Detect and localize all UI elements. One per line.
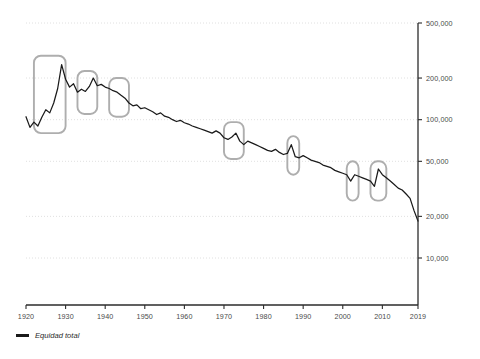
y-axis-tick-label-200000: 200,000 (426, 74, 453, 83)
x-axis-tick-label-1990: 1990 (283, 312, 323, 321)
highlight-box-2 (77, 71, 97, 114)
axes (26, 23, 418, 305)
data-series (26, 65, 418, 221)
x-axis-tick-label-1950: 1950 (125, 312, 165, 321)
y-axis-tick-label-10000: 10,000 (426, 254, 449, 263)
gridlines (26, 23, 418, 258)
highlight-box-5 (287, 136, 299, 175)
chart-container: 500,000200,000100,00050,00020,00010,000 … (0, 0, 480, 359)
highlight-box-3 (109, 78, 129, 117)
x-axis-tick-label-1930: 1930 (46, 312, 86, 321)
x-axis-tick-label-2019: 2019 (398, 312, 438, 321)
highlight-box-4 (224, 122, 244, 159)
x-axis-tick-label-2000: 2000 (323, 312, 363, 321)
y-axis-tick-label-500000: 500,000 (426, 19, 453, 28)
y-axis-tick-label-50000: 50,000 (426, 157, 449, 166)
highlight-boxes (34, 56, 386, 201)
series-line-0 (26, 65, 418, 221)
x-axis-tick-label-2010: 2010 (362, 312, 402, 321)
x-axis-tick-label-1980: 1980 (244, 312, 284, 321)
y-axis-tick-label-20000: 20,000 (426, 212, 449, 221)
x-axis-tick-label-1920: 1920 (6, 312, 46, 321)
line-chart (0, 0, 480, 359)
highlight-box-6 (347, 161, 359, 200)
legend-swatch-equidad-total (16, 334, 29, 337)
chart-legend: Equidad total (16, 331, 79, 340)
x-axis-tick-label-1960: 1960 (164, 312, 204, 321)
x-axis-tick-label-1970: 1970 (204, 312, 244, 321)
tick-marks (26, 23, 422, 309)
x-axis-tick-label-1940: 1940 (85, 312, 125, 321)
highlight-box-7 (370, 161, 386, 200)
y-axis-tick-label-100000: 100,000 (426, 115, 453, 124)
legend-label-equidad-total: Equidad total (35, 331, 79, 340)
